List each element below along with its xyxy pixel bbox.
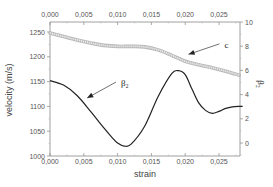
y-axis-right: 0246810 bbox=[240, 19, 253, 156]
x-tick-label-top: 0,025 bbox=[210, 11, 228, 18]
x-tick-label-top: 0,020 bbox=[176, 11, 194, 18]
y-tick-label-right: 0 bbox=[245, 140, 249, 147]
series-line-c-outer bbox=[50, 33, 239, 75]
y-tick-label-right: 2 bbox=[245, 115, 249, 122]
x-tick-label-bottom: 0,010 bbox=[109, 158, 127, 165]
y2-axis-title: β₂ bbox=[256, 80, 266, 88]
x-tick-label-top: 0,000 bbox=[41, 11, 59, 18]
y-tick-label-left: 1150 bbox=[30, 78, 45, 85]
series-line-beta2 bbox=[50, 70, 243, 146]
y-tick-label-right: 10 bbox=[245, 19, 253, 26]
x-tick-label-top: 0,005 bbox=[75, 11, 93, 18]
y-axis-title: velocity (m/s) bbox=[4, 63, 14, 116]
chart: 0,0000,0050,0100,0150,0200,025 0,0000,00… bbox=[0, 0, 273, 187]
x-axis-bottom: 0,0000,0050,0100,0150,0200,025 bbox=[41, 153, 236, 165]
y-tick-label-left: 1050 bbox=[29, 128, 45, 135]
x-tick-label-top: 0,010 bbox=[109, 11, 127, 18]
x-tick-label-bottom: 0,015 bbox=[143, 158, 161, 165]
x-axis-title: strain bbox=[134, 169, 156, 179]
x-tick-label-bottom: 0,005 bbox=[75, 158, 93, 165]
x-axis-top: 0,0000,0050,0100,0150,0200,025 bbox=[41, 11, 236, 25]
x-tick-label-top: 0,015 bbox=[143, 11, 161, 18]
y-tick-label-right: 8 bbox=[245, 43, 249, 50]
y-tick-label-left: 1000 bbox=[29, 153, 45, 160]
y-tick-label-left: 1200 bbox=[29, 53, 45, 60]
y-tick-label-right: 4 bbox=[245, 91, 249, 98]
annotation-arrowhead bbox=[87, 93, 94, 98]
y-axis-left: 100010501100115012001250 bbox=[29, 29, 50, 160]
y-tick-label-right: 6 bbox=[245, 67, 249, 74]
y-tick-label-left: 1100 bbox=[30, 103, 45, 110]
annotation-label-beta2: β₂ bbox=[121, 78, 129, 88]
series-layer bbox=[50, 33, 243, 146]
y-tick-label-left: 1250 bbox=[29, 29, 45, 36]
annotation-label-c: c bbox=[224, 40, 228, 50]
x-tick-label-bottom: 0,025 bbox=[210, 158, 228, 165]
x-tick-label-bottom: 0,020 bbox=[176, 158, 194, 165]
annotation-arrowhead bbox=[189, 50, 196, 55]
